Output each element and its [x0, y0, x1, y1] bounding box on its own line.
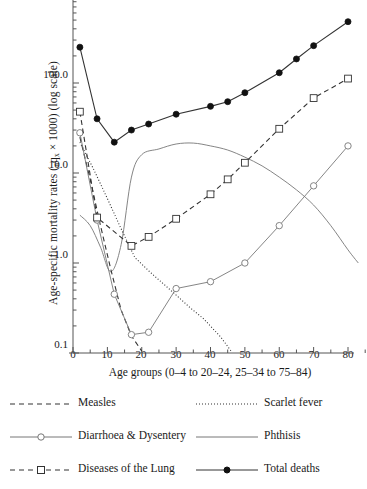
series-line-phthisis: [80, 143, 358, 272]
chart-legend: Measles Scarlet fever Diarrhoea & Dysent…: [0, 393, 367, 489]
data-point-total-deaths-9: [276, 70, 282, 76]
data-point-total-deaths-8: [242, 90, 248, 96]
legend-label-scarlet-fever: Scarlet fever: [264, 396, 322, 408]
data-point-diarrhoea-dysentery-5: [173, 285, 179, 291]
data-point-diarrhoea-dysentery-9: [310, 183, 316, 189]
data-point-total-deaths-7: [225, 99, 231, 105]
data-point-diarrhoea-dysentery-3: [128, 331, 134, 337]
data-point-diseases-of-the-lung-4: [173, 215, 180, 222]
legend-item-diseases-of-the-lung: Diseases of the Lung: [0, 459, 186, 483]
data-series-group: [76, 19, 358, 351]
data-point-diseases-of-the-lung-10: [345, 75, 352, 82]
legend-label-diseases-of-the-lung: Diseases of the Lung: [78, 462, 175, 474]
data-point-diseases-of-the-lung-5: [207, 191, 214, 198]
data-point-total-deaths-3: [128, 127, 134, 133]
legend-item-phthisis: Phthisis: [186, 426, 366, 450]
data-point-diarrhoea-dysentery-7: [242, 260, 248, 266]
data-point-diseases-of-the-lung-2: [128, 242, 135, 249]
data-point-total-deaths-11: [311, 43, 317, 49]
data-point-total-deaths-1: [94, 116, 100, 122]
legend-label-measles: Measles: [78, 396, 116, 408]
plot-area: [0, 0, 367, 380]
legend-label-phthisis: Phthisis: [264, 429, 300, 441]
legend-item-total-deaths: Total deaths: [186, 459, 366, 483]
data-point-diseases-of-the-lung-8: [276, 125, 283, 132]
data-point-diarrhoea-dysentery-0: [77, 130, 83, 136]
legend-sample-phthisis: [194, 426, 260, 448]
legend-sample-scarlet-fever: [194, 393, 260, 415]
legend-sample-diseases-of-the-lung: [8, 459, 74, 481]
legend-sample-diarrhoea-dysentery: [8, 426, 74, 448]
data-point-diseases-of-the-lung-0: [76, 108, 83, 115]
data-point-diarrhoea-dysentery-6: [207, 278, 213, 284]
data-point-total-deaths-6: [208, 103, 214, 109]
data-point-total-deaths-4: [146, 121, 152, 127]
legend-item-scarlet-fever: Scarlet fever: [186, 393, 366, 417]
data-point-diarrhoea-dysentery-8: [276, 222, 282, 228]
legend-label-diarrhoea-dysentery: Diarrhoea & Dysentery: [78, 429, 186, 441]
data-point-diarrhoea-dysentery-4: [145, 329, 151, 335]
data-point-diseases-of-the-lung-6: [224, 176, 231, 183]
data-point-total-deaths-0: [77, 44, 83, 50]
data-point-diseases-of-the-lung-1: [94, 214, 101, 221]
data-point-total-deaths-5: [173, 111, 179, 117]
legend-sample-total-deaths: [194, 459, 260, 481]
data-point-total-deaths-10: [293, 56, 299, 62]
legend-item-measles: Measles: [0, 393, 180, 417]
series-line-scarlet-fever: [80, 142, 231, 351]
legend-item-diarrhoea-dysentery: Diarrhoea & Dysentery: [0, 426, 186, 450]
series-line-diseases-of-the-lung: [80, 79, 348, 246]
legend-label-total-deaths: Total deaths: [264, 462, 320, 474]
data-point-diseases-of-the-lung-7: [241, 159, 248, 166]
data-point-diarrhoea-dysentery-10: [345, 143, 351, 149]
chart-figure: Age-specific mortality rates (nqx × 1000…: [0, 0, 367, 489]
data-point-total-deaths-12: [345, 19, 351, 25]
data-point-diseases-of-the-lung-9: [310, 95, 317, 102]
series-line-total-deaths: [80, 22, 348, 142]
data-point-total-deaths-2: [111, 139, 117, 145]
data-point-diarrhoea-dysentery-2: [111, 291, 117, 297]
axes: [69, 0, 365, 353]
data-point-diseases-of-the-lung-3: [145, 234, 152, 241]
legend-sample-measles: [8, 393, 74, 415]
